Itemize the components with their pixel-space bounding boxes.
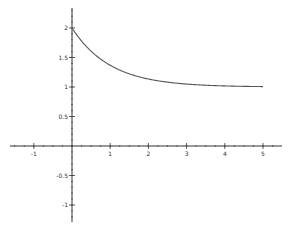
y-tick-label: 1.5 (58, 54, 68, 61)
x-tick-label: 1 (108, 150, 112, 157)
x-tick-label: -1 (31, 150, 37, 157)
x-tick-label: 5 (261, 150, 265, 157)
tick-labels: -11234521.510.5-0.5-1 (31, 24, 265, 208)
x-tick-label: 2 (146, 150, 150, 157)
x-tick-label: 3 (185, 150, 189, 157)
ticks (15, 10, 273, 217)
function-curve (72, 28, 263, 87)
y-tick-label: 0.5 (58, 113, 68, 120)
y-tick-label: -1 (62, 201, 68, 208)
function-plot: -11234521.510.5-0.5-1 (0, 0, 297, 236)
x-tick-label: 4 (223, 150, 227, 157)
y-tick-label: -0.5 (56, 172, 68, 179)
axes (10, 8, 282, 222)
y-tick-label: 2 (64, 24, 68, 31)
y-tick-label: 1 (64, 83, 68, 90)
